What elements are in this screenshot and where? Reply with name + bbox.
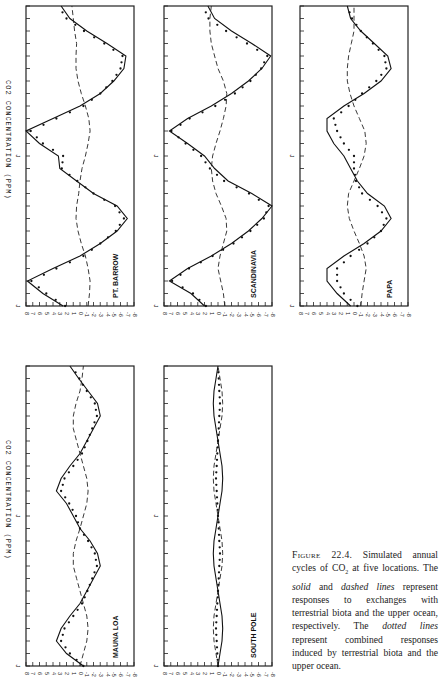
- y-tick-label: 3: [57, 672, 63, 675]
- series-dotted-point: [76, 609, 78, 611]
- series-dotted-point: [349, 255, 351, 257]
- series-dotted-point: [216, 502, 218, 504]
- y-tick-label: 5: [182, 312, 188, 315]
- y-tick-label: 6: [175, 312, 181, 315]
- series-dotted-point: [353, 167, 355, 169]
- y-tick-label: -6: [392, 312, 398, 317]
- series-dotted-point: [333, 117, 335, 119]
- series-dotted-point: [343, 292, 345, 294]
- series-dotted-point: [336, 274, 338, 276]
- plot-mauna-loa: 876543210-1-2-3-4-5-6-7-8JJMAUNA LOA: [8, 364, 140, 692]
- y-tick-label: 7: [168, 312, 174, 315]
- series-dotted-point: [218, 571, 220, 573]
- series-dotted-point: [188, 267, 190, 269]
- series-dotted-point: [222, 249, 224, 251]
- series-dotted-point: [89, 434, 91, 436]
- series-dotted-point: [45, 292, 47, 294]
- series-dotted-point: [334, 124, 336, 126]
- y-tick-label: -4: [105, 672, 111, 677]
- series-dotted-point: [216, 609, 218, 611]
- series-dotted-point: [380, 230, 382, 232]
- series-dotted-point: [349, 299, 351, 301]
- series-dotted-point: [83, 30, 85, 32]
- x-tick-label-j: J: [153, 155, 159, 158]
- figure-caption: Figure 22.4. Simulated annual cycles of …: [292, 548, 438, 673]
- series-dotted-point: [377, 49, 379, 51]
- y-tick-label: -8: [132, 312, 138, 317]
- series-dotted-point: [217, 515, 219, 517]
- series-dotted-point: [381, 211, 383, 213]
- series-dotted-point: [336, 130, 338, 132]
- series-dotted-point: [68, 174, 70, 176]
- y-tick-label: 4: [51, 312, 57, 315]
- y-tick-label: -8: [270, 672, 276, 677]
- series-dotted-point: [71, 509, 73, 511]
- y-tick-label: -3: [236, 672, 242, 677]
- y-tick-label: -7: [125, 312, 131, 317]
- y-tick-label: -5: [111, 672, 117, 677]
- y-tick-label: -6: [256, 672, 262, 677]
- series-dotted-point: [366, 36, 368, 38]
- series-dotted-point: [351, 17, 353, 19]
- series-dotted-point: [219, 396, 221, 398]
- y-tick-label: -2: [365, 312, 371, 317]
- series-dotted-point: [216, 452, 218, 454]
- series-dotted-point: [224, 99, 226, 101]
- series-dotted-point: [214, 105, 216, 107]
- series-dotted-point: [336, 267, 338, 269]
- series-dotted-point: [75, 659, 77, 661]
- y-tick-label: -4: [105, 312, 111, 317]
- series-dotted-point: [217, 596, 219, 598]
- y-tick-label: 4: [325, 312, 331, 315]
- series-dotted-point: [115, 230, 117, 232]
- series-dotted-point: [115, 74, 117, 76]
- y-tick-label: 3: [57, 312, 63, 315]
- series-dotted-point: [177, 136, 179, 138]
- plot-svg: 876543210-1-2-3-4-5-6-7-8JJMAUNA LOA: [8, 364, 140, 692]
- y-tick-label: 4: [51, 672, 57, 675]
- series-dotted-point: [217, 590, 219, 592]
- series-dotted-point: [30, 280, 32, 282]
- series-dotted-point: [235, 186, 237, 188]
- series-dotted-point: [99, 242, 101, 244]
- series-dotted-point: [111, 80, 113, 82]
- plot-svg: 876543210-1-2-3-4-5-6-7-8JJPAPA: [282, 4, 414, 332]
- y-tick-label: 3: [195, 312, 201, 315]
- y-tick-label: -1: [84, 312, 90, 317]
- series-dotted-point: [112, 49, 114, 51]
- series-dotted-point: [256, 49, 258, 51]
- series-dotted-point: [215, 477, 217, 479]
- series-dotted-point: [215, 484, 217, 486]
- series-dotted-point: [343, 142, 345, 144]
- series-dotted-point: [219, 559, 221, 561]
- y-tick-label: -6: [256, 312, 262, 317]
- y-tick-label: -5: [385, 312, 391, 317]
- series-dotted-point: [72, 615, 74, 617]
- series-solid-line: [327, 6, 391, 306]
- y-tick-label: 4: [189, 312, 195, 315]
- series-dotted-point: [103, 42, 105, 44]
- series-dotted-point: [96, 565, 98, 567]
- series-dotted-point: [68, 471, 70, 473]
- series-dotted-point: [216, 640, 218, 642]
- series-dotted-point: [121, 55, 123, 57]
- y-tick-label: 7: [30, 672, 36, 675]
- y-tick-label: 1: [71, 672, 77, 675]
- series-dotted-point: [217, 509, 219, 511]
- station-label: SOUTH POLE: [250, 612, 257, 658]
- y-axis-label-top: CO2 CONCENTRATION (PPM): [4, 80, 12, 200]
- series-dotted-point: [216, 24, 218, 26]
- series-dotted-point: [223, 180, 225, 182]
- series-dotted-point: [91, 99, 93, 101]
- series-dotted-point: [216, 490, 218, 492]
- series-dotted-point: [60, 640, 62, 642]
- series-dotted-point: [217, 446, 219, 448]
- series-dotted-point: [216, 652, 218, 654]
- series-dotted-point: [216, 459, 218, 461]
- series-dotted-point: [211, 255, 213, 257]
- y-tick-label: 8: [24, 312, 30, 315]
- series-dotted-point: [216, 496, 218, 498]
- series-dotted-point: [179, 124, 181, 126]
- series-dotted-point: [95, 559, 97, 561]
- y-tick-label: 1: [209, 312, 215, 315]
